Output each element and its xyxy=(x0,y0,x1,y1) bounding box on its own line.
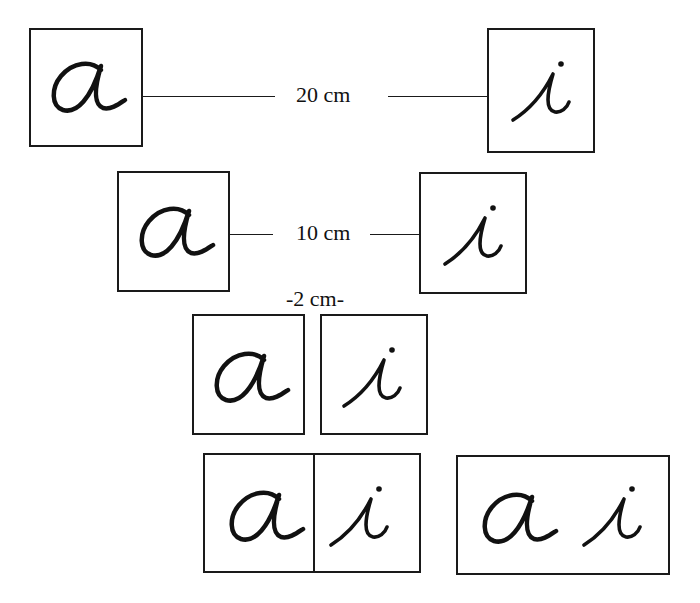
distance-label-20cm: 20 cm xyxy=(296,84,350,106)
card-i-row2 xyxy=(419,172,527,294)
connector-line-right-row1 xyxy=(388,96,487,97)
card-ai-joined xyxy=(203,453,421,573)
card-i-row3 xyxy=(320,314,428,435)
card-ai-combined xyxy=(456,455,670,575)
distance-label-10cm: 10 cm xyxy=(296,222,350,244)
card-a-row2 xyxy=(117,171,230,292)
connector-line-right-row2 xyxy=(370,234,419,235)
cursive-i-icon xyxy=(340,340,410,420)
cursive-i-icon xyxy=(580,479,650,559)
cursive-a-icon xyxy=(45,56,129,120)
cursive-a-icon xyxy=(476,487,560,551)
card-i-row1 xyxy=(487,28,595,153)
letter-spacing-diagram: 20 cm 10 cm -2 cm- xyxy=(0,0,700,603)
card-divider xyxy=(313,455,315,571)
card-a-row3 xyxy=(192,314,305,435)
connector-line-left-row2 xyxy=(230,234,273,235)
cursive-a-icon xyxy=(223,485,307,549)
card-a-row1 xyxy=(29,28,143,147)
cursive-i-icon xyxy=(441,198,511,278)
distance-label-2cm: -2 cm- xyxy=(286,288,344,310)
connector-line-left-row1 xyxy=(143,96,275,97)
cursive-a-icon xyxy=(208,346,292,410)
cursive-i-icon xyxy=(327,479,397,559)
cursive-a-icon xyxy=(133,201,217,265)
cursive-i-icon xyxy=(509,54,579,134)
